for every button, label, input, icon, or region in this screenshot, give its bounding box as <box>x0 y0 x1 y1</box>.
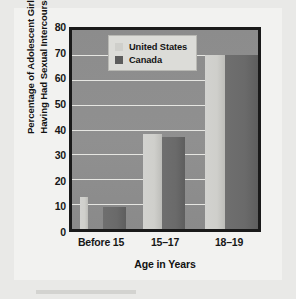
y-tick-20: 20 <box>55 175 66 187</box>
bar-canada-18-19 <box>225 55 258 229</box>
legend-swatch-icon-canada <box>115 56 123 64</box>
y-tick-40: 40 <box>55 124 66 136</box>
legend-swatch-icon-united-states <box>115 43 123 51</box>
x-tick-18-19: 18–19 <box>197 236 261 252</box>
x-tick-before-15: Before 15 <box>69 236 133 252</box>
y-axis-ticks: 80 70 60 50 40 30 20 10 0 <box>36 27 66 232</box>
bar-canada-before-15 <box>103 207 126 229</box>
bar-chart-figure: Percentage of Adolescent Girls Having Ha… <box>0 0 296 299</box>
legend-item-united-states: United States <box>115 40 187 53</box>
legend-label-canada: Canada <box>129 55 162 65</box>
y-tick-0: 0 <box>60 226 66 238</box>
x-axis-title: Age in Years <box>69 258 261 270</box>
y-tick-60: 60 <box>55 72 66 84</box>
bottom-rule-divider <box>36 290 136 294</box>
y-tick-50: 50 <box>55 98 66 110</box>
bar-us-before-15 <box>80 197 88 229</box>
y-tick-10: 10 <box>55 200 66 212</box>
y-tick-30: 30 <box>55 149 66 161</box>
legend-label-united-states: United States <box>129 42 187 52</box>
x-axis-ticks: Before 15 15–17 18–19 <box>69 236 261 252</box>
legend: United States Canada <box>108 35 197 71</box>
bar-us-18-19 <box>205 55 225 229</box>
plot-frame: United States Canada <box>69 27 261 232</box>
bar-canada-15-17 <box>162 137 185 229</box>
x-tick-15-17: 15–17 <box>133 236 197 252</box>
legend-item-canada: Canada <box>115 53 187 66</box>
y-tick-80: 80 <box>55 21 66 33</box>
y-tick-70: 70 <box>55 47 66 59</box>
bar-us-15-17 <box>143 134 163 229</box>
